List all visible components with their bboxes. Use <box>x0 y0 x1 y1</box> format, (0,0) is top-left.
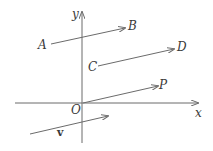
vector-v <box>30 116 108 134</box>
vector-diagram: y x O A B C D P v <box>0 0 213 151</box>
vector-ab <box>51 28 125 44</box>
point-b-label: B <box>128 20 137 32</box>
point-a-label: A <box>38 39 47 51</box>
vector-cd <box>98 49 174 66</box>
y-axis-label: y <box>72 8 79 20</box>
x-axis-label: x <box>195 107 202 119</box>
diagram-canvas <box>0 0 213 151</box>
point-c-label: C <box>88 61 97 73</box>
vector-op <box>83 86 158 103</box>
vector-v-label: v <box>57 127 63 138</box>
origin-label: O <box>71 104 81 116</box>
point-d-label: D <box>177 41 187 53</box>
point-p-label: P <box>159 79 167 91</box>
